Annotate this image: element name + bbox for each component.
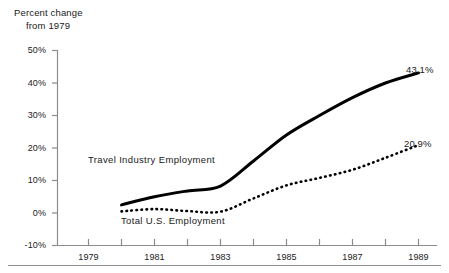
y-axis-ticks xyxy=(52,51,58,246)
series-line-travel-industry-employment xyxy=(122,73,419,205)
footer-divider xyxy=(8,265,441,266)
x-tick-label-1985: 1985 xyxy=(267,252,307,262)
x-tick-label-1983: 1983 xyxy=(201,252,241,262)
x-tick-label-1989: 1989 xyxy=(399,252,439,262)
x-tick-label-1981: 1981 xyxy=(135,252,175,262)
x-tick-label-1987: 1987 xyxy=(333,252,373,262)
series-annotation-total-us-employment: Total U.S. Employment xyxy=(121,215,225,226)
chart-plot-area xyxy=(0,0,449,273)
end-value-label-total-us-employment: 20.9% xyxy=(404,138,431,149)
y-tick-label-30: 30% xyxy=(12,110,46,120)
y-tick-label-10: 10% xyxy=(12,175,46,185)
end-value-label-travel-industry-employment: 43.1% xyxy=(406,64,433,75)
y-tick-label-50: 50% xyxy=(12,45,46,55)
y-tick-label-40: 40% xyxy=(12,78,46,88)
series-annotation-travel-industry-employment: Travel Industry Employment xyxy=(88,154,215,165)
y-tick-label-neg-10: -10% xyxy=(8,240,46,250)
chart-figure: Percent change from 1979 xyxy=(0,0,449,273)
x-axis-ticks xyxy=(89,239,419,246)
y-tick-label-20: 20% xyxy=(12,143,46,153)
y-tick-label-0: 0% xyxy=(12,208,46,218)
x-tick-label-1979: 1979 xyxy=(69,252,109,262)
